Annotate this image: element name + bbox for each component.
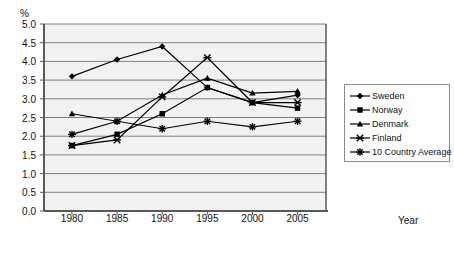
legend-item-10-country-average[interactable]: 10 Country Average: [347, 145, 447, 159]
marker-square: [295, 105, 300, 110]
marker-asterisk: [158, 125, 166, 132]
legend-label: Finland: [372, 133, 402, 143]
marker-asterisk: [203, 118, 211, 125]
legend-item-denmark[interactable]: Denmark: [347, 117, 447, 131]
marker-square: [114, 132, 119, 137]
marker-x: [356, 135, 364, 141]
marker-square: [159, 111, 164, 116]
legend-label: Sweden: [372, 91, 405, 101]
legend-marker-x-icon: [349, 132, 371, 144]
legend-label: Denmark: [372, 119, 409, 129]
legend-label: Norway: [372, 105, 403, 115]
legend-item-norway[interactable]: Norway: [347, 103, 447, 117]
line-chart: % Year 0.00.51.01.52.02.53.03.54.04.55.0…: [0, 0, 454, 257]
legend-marker-square-icon: [349, 104, 371, 116]
legend-label: 10 Country Average: [372, 147, 451, 157]
legend-marker-diamond-icon: [349, 90, 371, 102]
marker-asterisk: [249, 123, 257, 130]
marker-square: [357, 107, 362, 112]
marker-asterisk: [68, 131, 76, 138]
marker-diamond: [357, 93, 363, 99]
marker-square: [205, 85, 210, 90]
marker-asterisk: [356, 148, 364, 155]
legend-item-sweden[interactable]: Sweden: [347, 89, 447, 103]
marker-asterisk: [113, 118, 121, 125]
legend-item-finland[interactable]: Finland: [347, 131, 447, 145]
legend-marker-triangle-icon: [349, 118, 371, 130]
legend-marker-asterisk-icon: [349, 146, 371, 158]
marker-asterisk: [294, 118, 302, 125]
chart-legend: SwedenNorwayDenmarkFinland10 Country Ave…: [344, 84, 450, 162]
